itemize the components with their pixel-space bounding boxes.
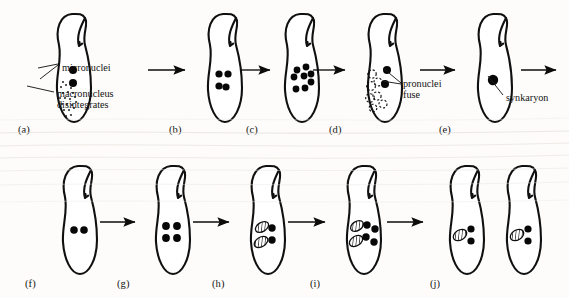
- micronucleus: [467, 237, 474, 244]
- panel-label-f: (f): [25, 278, 36, 289]
- panel-label-c: (c): [246, 124, 258, 135]
- annotation-synkaryon: synkaryon: [506, 92, 548, 103]
- micronucleus: [371, 225, 378, 232]
- micronucleus: [524, 237, 531, 244]
- annotation-macronucleus: macronucleus disintegrates: [57, 88, 114, 111]
- panel-label-h: (h): [212, 278, 225, 289]
- micronucleus: [383, 66, 391, 74]
- panel-label-d: (d): [329, 124, 342, 135]
- micronucleus: [224, 70, 231, 77]
- micronucleus: [488, 75, 498, 85]
- micronucleus: [524, 225, 531, 232]
- micronucleus: [294, 67, 301, 74]
- cell-c: [285, 14, 319, 122]
- cell-g: [156, 166, 190, 274]
- micronucleus: [173, 222, 181, 230]
- cell-i: [347, 166, 381, 274]
- cell-b: [208, 14, 242, 122]
- micronucleus: [173, 234, 181, 242]
- micronucleus: [70, 226, 78, 234]
- micronucleus: [162, 234, 170, 242]
- macronucleus-speck: [62, 81, 64, 83]
- micronucleus: [370, 238, 377, 245]
- micronucleus: [308, 79, 315, 86]
- cell-j: [507, 166, 541, 274]
- micronucleus: [362, 233, 369, 240]
- micronucleus: [303, 64, 310, 71]
- panel-label-a: (a): [18, 124, 30, 135]
- micronucleus: [302, 85, 309, 92]
- micronucleus: [268, 224, 275, 231]
- annotation-pronuclei: pronuclei fuse: [403, 78, 441, 101]
- macronucleus-speck: [65, 84, 67, 86]
- panel-label-b: (b): [169, 124, 182, 135]
- micronucleus: [268, 236, 275, 243]
- leader-macronucleus: [27, 86, 54, 92]
- micronucleus: [301, 73, 308, 80]
- micronucleus: [291, 74, 298, 81]
- cells-layer: [57, 14, 541, 274]
- diagram-canvas: [0, 0, 569, 298]
- panel-label-e: (e): [439, 124, 451, 135]
- micronucleus: [467, 225, 474, 232]
- panel-label-i: (i): [310, 278, 320, 289]
- micronucleus: [363, 221, 370, 228]
- micronucleus: [215, 70, 222, 77]
- cell-d: [366, 14, 402, 122]
- micronucleus: [308, 71, 315, 78]
- micronucleus: [293, 86, 300, 93]
- panel-label-g: (g): [117, 278, 130, 289]
- macronucleus-speck: [65, 115, 67, 117]
- conjugation-diagram: (a)(b)(c)(d)(e)(f)(g)(h)(i)(j) micronucl…: [0, 0, 569, 298]
- cell-j: [450, 166, 484, 274]
- cell-e: [478, 14, 512, 122]
- annotation-micronuclei: micronuclei: [62, 62, 111, 73]
- cell-h: [251, 166, 285, 274]
- macronucleus-speck: [70, 114, 72, 116]
- micronucleus: [215, 82, 222, 89]
- cell-f: [63, 166, 97, 274]
- micronucleus: [222, 83, 229, 90]
- panel-label-j: (j): [430, 278, 440, 289]
- micronucleus: [80, 226, 88, 234]
- micronucleus: [162, 222, 170, 230]
- micronucleus: [69, 79, 77, 87]
